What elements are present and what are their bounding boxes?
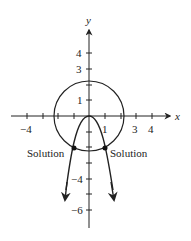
x-tick-label-m4: −4 [20,123,32,135]
y-axis-label: y [85,14,91,26]
x-tick-label-3: 3 [132,123,138,135]
y-tick-label-1: 1 [77,94,83,106]
y-tick-label-3: 3 [76,63,82,75]
solution-point-right [103,146,108,151]
solution-point-left [72,146,77,151]
solution-label-left: Solution [27,147,65,159]
x-tick-label-4: 4 [148,123,154,135]
solution-label-right: Solution [110,147,148,159]
x-axis-label: x [174,110,180,122]
y-tick-label-m6: −6 [71,204,83,216]
x-tick-label-1: 1 [102,123,108,135]
y-tick-label-m4: −4 [71,173,83,185]
y-tick-label-4: 4 [76,47,82,59]
graph: y x −4 1 3 4 4 3 1 −4 −6 Solution Soluti… [0,0,191,241]
parabola-left-arrow [65,182,67,200]
